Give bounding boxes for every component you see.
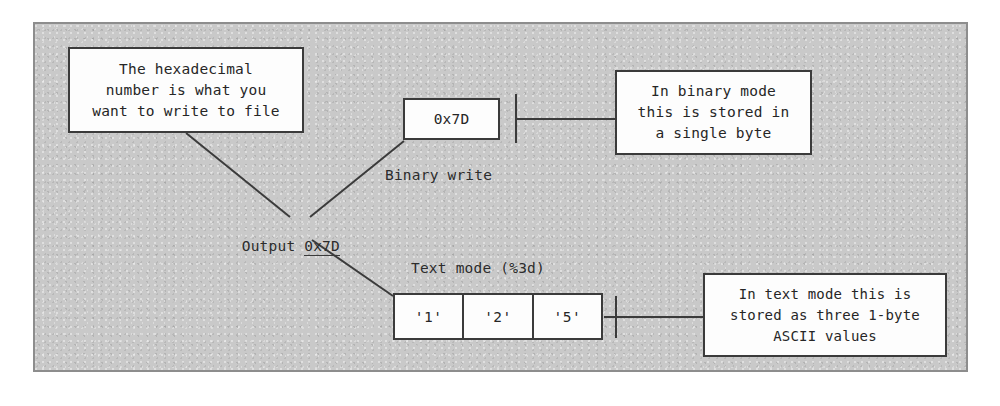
- byte-cell: '1': [395, 295, 464, 338]
- hexadecimal-note-box: The hexadecimal number is what you want …: [68, 47, 304, 133]
- diagram-canvas: The hexadecimal number is what you want …: [0, 0, 1000, 406]
- text-mode-note-box: In text mode this is stored as three 1-b…: [703, 273, 947, 357]
- binary-mode-note-box: In binary mode this is stored in a singl…: [615, 70, 812, 155]
- byte-cell: '5': [534, 295, 601, 338]
- hex-value-box: 0x7D: [403, 98, 500, 140]
- byte-strip: '1' '2' '5': [393, 293, 603, 340]
- binary-write-label: Binary write: [385, 167, 492, 183]
- text-mode-label: Text mode (%3d): [411, 260, 545, 276]
- output-label: Output 0x7D: [206, 222, 340, 270]
- byte-cell: '2': [464, 295, 533, 338]
- output-label-prefix: Output: [242, 238, 305, 254]
- output-label-value: 0x7D: [304, 238, 340, 256]
